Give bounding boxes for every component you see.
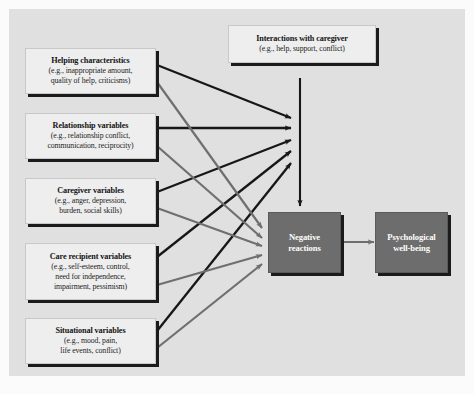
node-situational-title: Situational variables [55,326,125,337]
node-relationship-title: Relationship variables [53,121,129,132]
node-helping-title: Helping characteristics [51,56,129,67]
node-negative-reactions[interactable]: Negative reactions [268,212,341,273]
node-caregiver-subtitle-line2: burden, social skills) [59,206,122,216]
node-psychological-wellbeing[interactable]: Psychological well-being [375,212,448,273]
node-relationship-variables[interactable]: Relationship variables (e.g., relationsh… [25,113,156,159]
node-situational-variables[interactable]: Situational variables (e.g., mood, pain,… [25,318,156,364]
node-care-recipient-subtitle-line2: need for independence, [55,272,125,282]
node-helping-characteristics[interactable]: Helping characteristics (e.g., inappropr… [25,48,156,94]
node-interactions-with-caregiver[interactable]: Interactions with caregiver (e.g., help,… [228,25,376,63]
node-care-recipient-subtitle-line1: (e.g., self-esteem, control, [51,262,129,272]
node-negative-reactions-line1: Negative [289,232,320,242]
node-care-recipient-subtitle-line3: impairment, pessimism) [54,282,127,292]
node-relationship-subtitle-line2: communication, reciprocity) [47,141,133,151]
figure-canvas: Interactions with caregiver (e.g., help,… [0,0,474,394]
node-situational-subtitle-line1: (e.g., mood, pain, [64,336,117,346]
node-caregiver-variables[interactable]: Caregiver variables (e.g., anger, depres… [25,178,156,224]
node-interactions-title: Interactions with caregiver [256,34,348,45]
node-caregiver-title: Caregiver variables [57,186,124,197]
node-interactions-subtitle: (e.g., help, support, conflict) [259,44,345,54]
node-psychological-wellbeing-label: Psychological well-being [387,232,435,254]
node-caregiver-subtitle-line1: (e.g., anger, depression, [55,196,126,206]
node-care-recipient-title: Care recipient variables [50,252,131,263]
node-care-recipient-variables[interactable]: Care recipient variables (e.g., self-est… [25,243,156,300]
node-wellbeing-line2: well-being [393,243,430,253]
node-helping-subtitle-line1: (e.g., inappropriate amount, [49,66,133,76]
node-helping-subtitle-line2: quality of help, criticisms) [51,76,130,86]
node-situational-subtitle-line2: life events, conflict) [60,346,120,356]
node-relationship-subtitle-line1: (e.g., relationship conflict, [51,131,130,141]
node-negative-reactions-label: Negative reactions [288,232,320,254]
node-negative-reactions-line2: reactions [288,243,320,253]
node-wellbeing-line1: Psychological [387,232,435,242]
